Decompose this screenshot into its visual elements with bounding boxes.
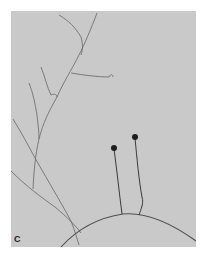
- hypha-branch-top: [59, 15, 83, 55]
- sporangium-left: [111, 145, 117, 151]
- sporangiophore-right: [135, 138, 143, 215]
- hypha-branch-left: [41, 67, 57, 97]
- sporangium-right: [132, 134, 138, 140]
- hypha-branch-far-left: [29, 83, 39, 139]
- hyphae-drawing: [11, 11, 196, 247]
- hypha-lower-left: [11, 171, 81, 233]
- panel-label: C: [14, 234, 21, 244]
- sporangiophore-left: [114, 149, 122, 214]
- hypha-branch-right: [71, 73, 113, 77]
- hypha-curved-base: [61, 214, 196, 247]
- hypha-main: [33, 13, 97, 189]
- micrograph: C: [11, 11, 196, 247]
